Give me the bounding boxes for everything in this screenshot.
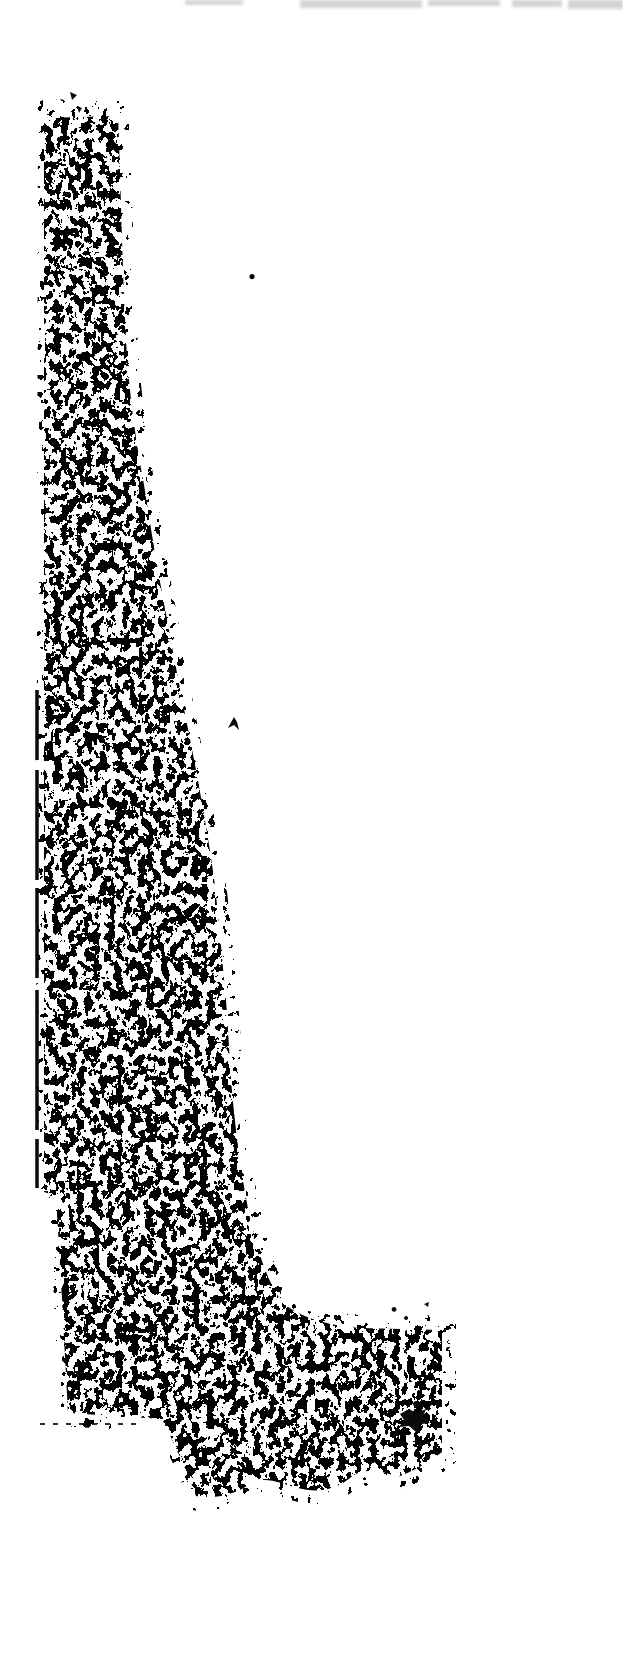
scanned-page (0, 0, 623, 1678)
scan-canvas (0, 0, 623, 1678)
